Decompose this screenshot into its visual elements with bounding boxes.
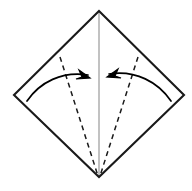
origami-diagram-container: Origami fold diagram Square paper rotate… xyxy=(0,0,192,191)
origami-fold-diagram: Origami fold diagram Square paper rotate… xyxy=(0,0,192,191)
diagram-background xyxy=(0,0,192,191)
